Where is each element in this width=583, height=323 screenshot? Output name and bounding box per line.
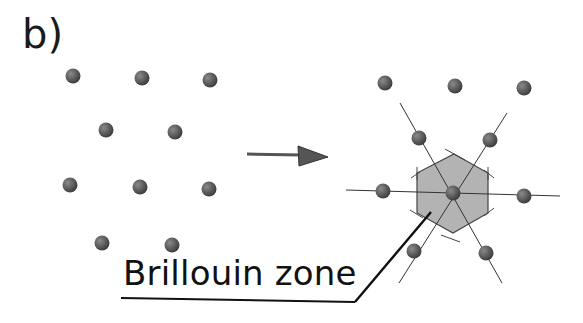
lattice-point [133, 180, 148, 195]
lattice-point [378, 76, 393, 91]
brillouin-zone-label: Brillouin zone [123, 256, 357, 290]
center-lattice-point [446, 186, 461, 201]
lattice-point [517, 81, 532, 96]
lattice-point [376, 184, 391, 199]
lattice-point [448, 79, 463, 94]
lattice-point [479, 246, 494, 261]
lattice-point [165, 238, 180, 253]
lattice-point [203, 73, 218, 88]
left-lattice [63, 69, 218, 253]
lattice-point [517, 189, 532, 204]
lattice-point [412, 131, 427, 146]
brillouin-zone-diagram: b) [0, 0, 583, 323]
lattice-point [168, 125, 183, 140]
lattice-point [407, 244, 422, 259]
lattice-point [202, 182, 217, 197]
lattice-point [99, 123, 114, 138]
lattice-point [135, 71, 150, 86]
lattice-point [63, 178, 78, 193]
lattice-point [66, 69, 81, 84]
arrow-icon [247, 146, 328, 166]
lattice-point [95, 236, 110, 251]
lattice-point [483, 133, 498, 148]
